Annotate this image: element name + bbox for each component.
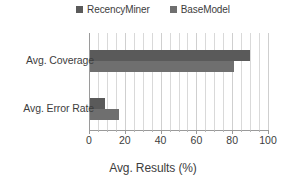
tick-mark — [250, 130, 251, 132]
bar-basemodel-avg-coverage — [89, 61, 234, 72]
tick-mark — [187, 130, 188, 132]
gridline — [125, 33, 126, 130]
category-label-avg-error-rate: Avg. Error Rate — [23, 102, 94, 114]
bar-recencyminer-avg-coverage — [89, 50, 250, 61]
tick-mark — [152, 130, 153, 132]
tick-mark — [205, 130, 206, 132]
x-tick-label: 60 — [191, 134, 203, 146]
tick-mark — [107, 130, 108, 132]
gridline — [179, 33, 180, 130]
gridline — [134, 33, 135, 130]
tick-mark — [170, 130, 171, 132]
legend-swatch-icon — [170, 6, 177, 13]
x-tick-label: 80 — [226, 134, 238, 146]
gridline — [241, 33, 242, 130]
legend-entry-basemodel: BaseModel — [170, 4, 230, 15]
plot-area — [89, 33, 268, 130]
tick-mark — [116, 130, 117, 132]
gridline — [232, 33, 233, 130]
x-tick-label: 40 — [155, 134, 167, 146]
gridline — [161, 33, 162, 130]
legend-label: RecencyMiner — [87, 4, 150, 15]
category-label-avg-coverage: Avg. Coverage — [26, 54, 94, 66]
tick-mark — [214, 130, 215, 132]
tick-mark — [134, 130, 135, 132]
x-tick-label: 0 — [86, 134, 92, 146]
gridline — [250, 33, 251, 130]
x-axis-title: Avg. Results (%) — [0, 161, 306, 175]
legend-entry-recencyminer: RecencyMiner — [76, 4, 150, 15]
x-tick-label: 100 — [259, 134, 277, 146]
tick-mark — [259, 130, 260, 132]
x-tick-label: 20 — [119, 134, 131, 146]
tick-mark — [143, 130, 144, 132]
tick-mark — [179, 130, 180, 132]
gridline — [170, 33, 171, 130]
gridline — [152, 33, 153, 130]
gridline — [143, 33, 144, 130]
tick-mark — [223, 130, 224, 132]
tick-mark — [98, 130, 99, 132]
legend-swatch-icon — [76, 6, 83, 13]
y-axis-line — [89, 33, 90, 130]
gridline — [214, 33, 215, 130]
gridline — [223, 33, 224, 130]
chart-legend: RecencyMiner BaseModel — [0, 4, 306, 15]
gridline — [196, 33, 197, 130]
gridline — [259, 33, 260, 130]
bar-chart: RecencyMiner BaseModel Avg. Coverage Avg… — [0, 0, 306, 185]
gridline — [187, 33, 188, 130]
gridline — [268, 33, 269, 130]
gridline — [205, 33, 206, 130]
legend-label: BaseModel — [181, 4, 230, 15]
tick-mark — [241, 130, 242, 132]
